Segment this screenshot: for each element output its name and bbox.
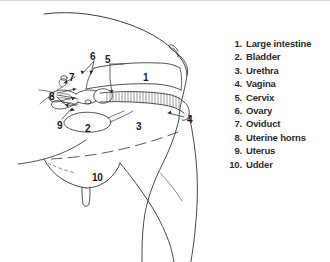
arrowhead-8c [65,104,69,107]
legend-item: 4. Vagina [228,77,328,90]
diagram-panel: 1 2 3 4 5 6 7 8 9 10 [0,1,222,262]
legend-item-label: Ovary [246,104,272,117]
callout-number-7: 7 [69,73,74,83]
legend-item-label: Urethra [246,64,279,77]
legend-item: 5. Cervix [228,91,328,104]
legend-item-label: Vagina [246,77,276,90]
leader-9 [62,108,72,119]
legend-item-index: 6. [228,104,242,117]
legend-item: 1. Large intestine [228,37,328,50]
leader-5 [110,64,112,93]
callout-number-4: 4 [187,115,192,125]
arrowhead-8b [71,97,75,101]
legend-item: 8. Uterine horns [228,131,328,144]
legend-item-index: 3. [228,64,242,77]
cow-anatomy-drawing [0,1,222,262]
hind-leg-front [120,163,174,262]
udder-outline [44,159,86,188]
legend-list: 1. Large intestine 2. Bladder 3. Urethra… [228,37,328,171]
arrowhead-8a [73,87,76,91]
callout-number-6: 6 [90,52,95,62]
body-topline [44,13,187,75]
urethra-line [110,111,133,122]
uterine-body [76,90,96,94]
legend-item-index: 9. [228,144,242,157]
callout-number-1: 1 [143,73,148,83]
vagina-upper-wall [100,92,184,102]
legend-item: 6. Ovary [228,104,328,117]
legend-item-label: Udder [246,158,273,171]
legend-item: 7. Oviduct [228,117,328,130]
rectum-posterior-end [180,68,182,90]
legend-item-label: Large intestine [246,37,311,50]
callout-number-3: 3 [136,122,141,132]
legend-item-index: 1. [228,37,242,50]
legend-item-index: 2. [228,50,242,63]
arrowhead-6a [89,71,93,74]
callout-number-8: 8 [49,92,54,102]
legend-item: 3. Urethra [228,64,328,77]
legend-item-index: 8. [228,131,242,144]
legend-item-label: Bladder [246,50,280,63]
cervix-outline [94,89,113,104]
hind-leg-rear [189,115,197,262]
legend-item-label: Cervix [246,91,274,104]
abdominal-wall-dashed [50,132,178,159]
callout-number-5: 5 [105,55,110,65]
teat-outline [82,187,90,206]
legend-item-label: Uterine horns [246,131,306,144]
callout-number-2: 2 [85,124,90,134]
legend-item-index: 10. [228,158,242,171]
legend-item: 2. Bladder [228,50,328,63]
hock-crease [160,173,182,201]
vagina-lower-wall [100,102,184,113]
callout-number-10: 10 [92,173,103,183]
uterine-body-lower [78,101,96,104]
legend-item-label: Oviduct [246,117,280,130]
ovary-left [61,76,67,81]
legend-item: 10. Udder [228,158,328,171]
arrowhead-4 [168,111,172,115]
leader-lines [57,61,184,119]
legend-item-index: 7. [228,117,242,130]
belly-outline [18,140,86,164]
hind-leg-thigh [142,119,179,262]
legend-item-label: Uterus [246,144,275,157]
callout-number-9: 9 [57,121,62,131]
legend-item-index: 4. [228,77,242,90]
legend-item-index: 5. [228,91,242,104]
tail-outline [169,45,188,75]
legend-item: 9. Uterus [228,144,328,157]
figure-page: 1 2 3 4 5 6 7 8 9 10 1. Large intestine … [0,0,330,262]
